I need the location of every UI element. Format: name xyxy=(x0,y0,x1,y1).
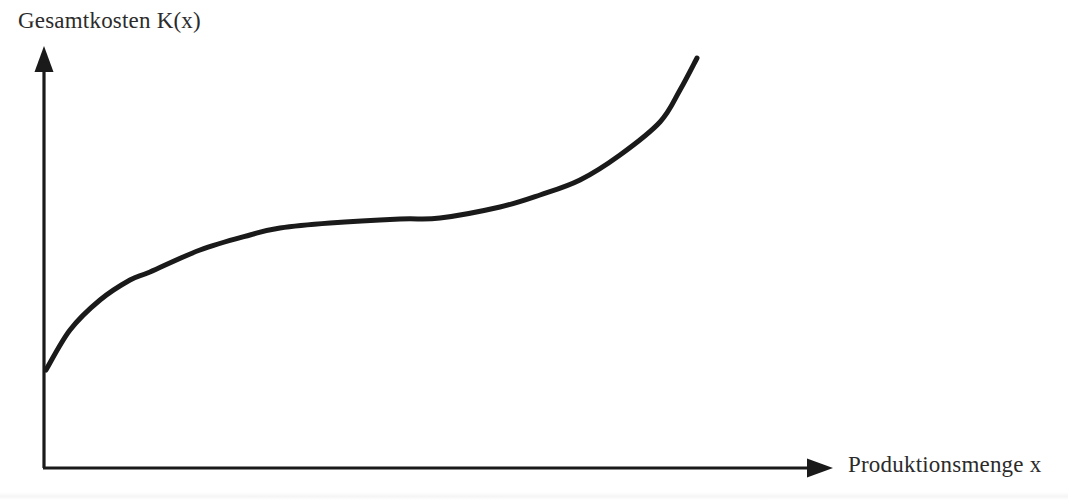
axes-group xyxy=(35,46,834,478)
x-axis-label: Produktionsmenge x xyxy=(848,452,1041,478)
y-axis-arrowhead-icon xyxy=(35,46,54,72)
y-axis-label: Gesamtkosten K(x) xyxy=(18,8,201,34)
series-group xyxy=(46,58,697,370)
x-axis-arrowhead-icon xyxy=(807,459,833,478)
cost-curve-path xyxy=(46,58,697,370)
chart-canvas xyxy=(0,0,1068,500)
cost-function-chart: Gesamtkosten K(x) Produktionsmenge x xyxy=(0,0,1068,500)
